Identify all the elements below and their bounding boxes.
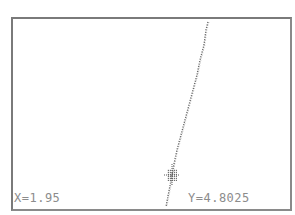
trace-y-readout: Y=4.8025	[188, 191, 250, 205]
trace-cursor-icon	[164, 164, 180, 186]
graph-plot	[0, 0, 295, 215]
trace-x-readout: X=1.95	[14, 191, 60, 205]
